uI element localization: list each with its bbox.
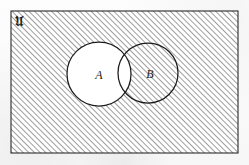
set-a-label: A xyxy=(94,68,103,82)
venn-diagram-figure: 𝔘 A B xyxy=(0,0,249,165)
universal-set-label: 𝔘 xyxy=(15,14,24,29)
venn-diagram-canvas: 𝔘 A B xyxy=(0,0,249,165)
set-b-label: B xyxy=(146,67,154,81)
